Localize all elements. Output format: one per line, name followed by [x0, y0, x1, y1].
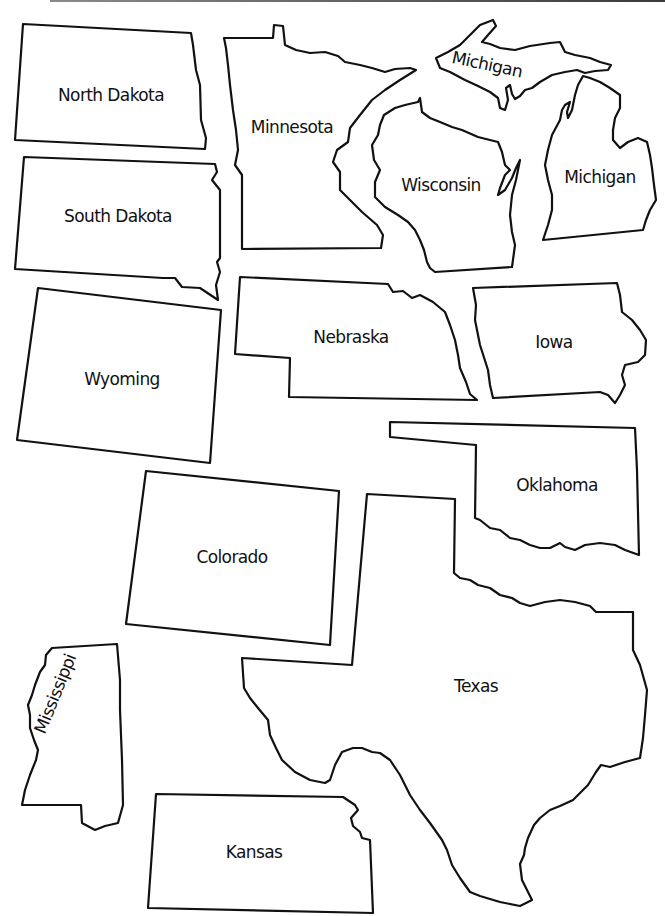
state-colorado[interactable]: Colorado: [126, 471, 339, 645]
state-nebraska[interactable]: Nebraska: [235, 277, 477, 400]
state-label: Texas: [453, 676, 499, 696]
state-label: Minnesota: [251, 117, 333, 137]
state-label: Wisconsin: [401, 175, 481, 195]
state-label: Nebraska: [313, 327, 388, 347]
state-label: Iowa: [535, 332, 572, 352]
state-label: Colorado: [196, 547, 267, 567]
state-label: Wyoming: [84, 369, 160, 389]
state-kansas[interactable]: Kansas: [148, 794, 373, 913]
state-wyoming[interactable]: Wyoming: [17, 288, 221, 463]
state-label: Oklahoma: [516, 475, 598, 495]
state-label: Michigan: [564, 167, 635, 187]
state-mississippi[interactable]: Mississippi: [22, 644, 123, 830]
state-north-dakota[interactable]: North Dakota: [15, 24, 206, 149]
state-label: North Dakota: [58, 85, 164, 105]
state-label: Kansas: [226, 842, 283, 862]
state-iowa[interactable]: Iowa: [473, 283, 646, 403]
state-label: South Dakota: [64, 206, 172, 226]
state-wisconsin[interactable]: Wisconsin: [372, 98, 520, 272]
state-michigan-lower[interactable]: Michigan: [543, 76, 656, 240]
state-south-dakota[interactable]: South Dakota: [15, 157, 220, 300]
state-cutouts-sheet: North Dakota South Dakota Wyoming Minnes…: [0, 0, 665, 916]
